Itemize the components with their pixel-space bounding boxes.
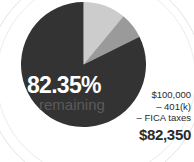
calc-401k-line: – 401(k) (113, 101, 191, 113)
calculation-block: $100,000 – 401(k) – FICA taxes $82,350 (113, 89, 191, 143)
calc-fica-line: – FICA taxes (113, 112, 191, 124)
calc-gross-line: $100,000 (113, 89, 191, 101)
take-home-pay-infographic: 401(k) 11%FICA taxes 6.65%remaining 82.3… (0, 0, 194, 162)
calc-total-line: $82,350 (113, 126, 191, 143)
